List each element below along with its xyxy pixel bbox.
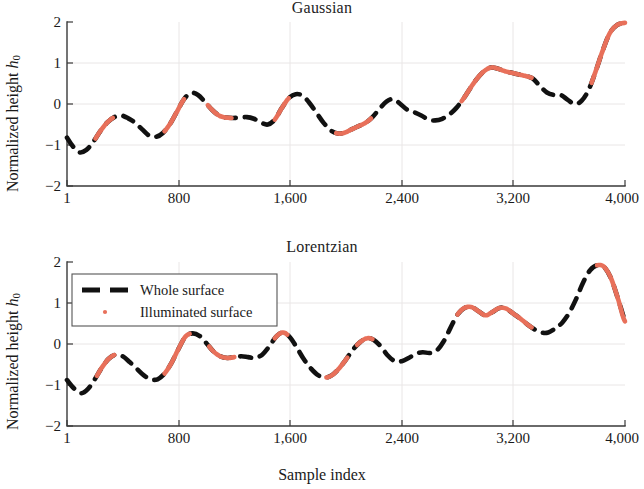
x-tick-label: 800 [168, 190, 191, 206]
x-tick-label: 4,000 [605, 430, 639, 446]
x-tick-label: 1,600 [273, 190, 307, 206]
illuminated-segment [275, 333, 288, 339]
illuminated-segment [458, 307, 532, 328]
x-tick-label: 1 [63, 430, 71, 446]
panel-title-lorentzian: Lorentzian [0, 238, 644, 256]
curve-illuminated-surface-gaussian [95, 23, 625, 139]
x-tick-label: 800 [168, 430, 191, 446]
illuminated-segment [336, 118, 371, 133]
illuminated-segment [462, 67, 532, 101]
illuminated-segment [165, 334, 190, 374]
y-tick-label: 0 [54, 96, 62, 112]
y-tick-label: −1 [45, 377, 61, 393]
illuminated-segment [97, 355, 114, 376]
x-ticks-lorentzian: 1 800 1,600 2,400 3,200 4,000 [63, 420, 639, 446]
legend: Whole surface Illuminated surface [72, 274, 277, 326]
illuminated-segment [275, 98, 289, 119]
y-tick-label: 1 [54, 295, 62, 311]
y-axis-label-gaussian: Normalized height h0 [4, 55, 22, 192]
illuminated-segment [326, 358, 347, 378]
x-tick-label: 1,600 [273, 430, 307, 446]
x-tick-label: 2,400 [385, 430, 419, 446]
x-tick-label: 3,200 [496, 190, 530, 206]
y-tick-label: −1 [45, 137, 61, 153]
legend-swatch-illuminated-surface [103, 310, 107, 314]
x-tick-label: 4,000 [605, 190, 639, 206]
plot-gaussian: 2 1 0 −1 −2 1 800 1,600 2,400 3,200 4,00… [0, 0, 644, 230]
illuminated-segment [597, 265, 625, 321]
x-tick-label: 3,200 [496, 430, 530, 446]
y-tick-label: 2 [54, 254, 62, 270]
illuminated-segment [209, 347, 234, 358]
x-ticks-gaussian: 1 800 1,600 2,400 3,200 4,000 [63, 180, 639, 206]
y-tick-label: 0 [54, 336, 62, 352]
y-tick-label: 1 [54, 55, 62, 71]
panel-title-gaussian: Gaussian [0, 0, 644, 17]
y-ticks-gaussian: 2 1 0 −1 −2 [45, 14, 73, 194]
grid-gaussian [67, 22, 625, 186]
legend-label-whole-surface: Whole surface [140, 282, 224, 298]
y-tick-label: −2 [45, 178, 61, 194]
x-tick-label: 1 [63, 190, 71, 206]
figure-container: Gaussian Normalized height h0 [0, 0, 644, 489]
plot-lorentzian: 2 1 0 −1 −2 1 800 1,600 2,400 3,200 4,00… [0, 235, 644, 475]
illuminated-segment [208, 105, 232, 118]
y-ticks-lorentzian: 2 1 0 −1 −2 [45, 254, 73, 434]
x-tick-label: 2,400 [385, 190, 419, 206]
y-axis-label-lorentzian: Normalized height h0 [4, 293, 22, 430]
illuminated-segment [95, 118, 112, 139]
illuminated-segment [592, 23, 625, 83]
y-tick-label: −2 [45, 418, 61, 434]
panel-lorentzian: Lorentzian Normalized height h0 [0, 235, 644, 489]
x-axis-label: Sample index [0, 466, 644, 484]
panel-gaussian: Gaussian Normalized height h0 [0, 0, 644, 230]
legend-label-illuminated-surface: Illuminated surface [140, 304, 252, 320]
